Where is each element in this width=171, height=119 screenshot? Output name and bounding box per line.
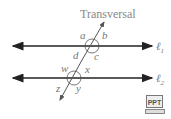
ppt-button[interactable]: PPT — [145, 95, 165, 115]
line-l1-label: ℓ1 — [156, 40, 164, 55]
angle-b: b — [102, 29, 108, 41]
angle-c: c — [94, 50, 99, 62]
angle-x: x — [84, 63, 90, 75]
angle-d: d — [73, 49, 79, 61]
angle-z: z — [55, 82, 61, 94]
angle-y: y — [75, 82, 81, 94]
ppt-icon: PPT — [146, 95, 163, 108]
angle-a: a — [80, 29, 86, 41]
transversal-label: Transversal — [80, 7, 136, 21]
ppt-icon-base — [145, 109, 165, 114]
line-l2-label: ℓ2 — [156, 72, 165, 87]
transversal-line — [82, 22, 104, 60]
angle-w: w — [61, 62, 69, 74]
